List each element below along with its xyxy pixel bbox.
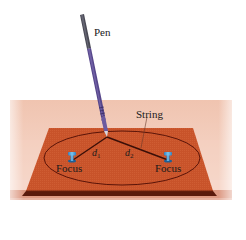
string-label: String [136,108,163,120]
ellipse-drawing-diagram: Pen String d1 d2 Focus Focus [0,0,246,240]
board [22,128,217,196]
right-focus-label: Focus [155,162,181,174]
left-focus-label: Focus [56,162,82,174]
pen-label: Pen [94,26,111,38]
